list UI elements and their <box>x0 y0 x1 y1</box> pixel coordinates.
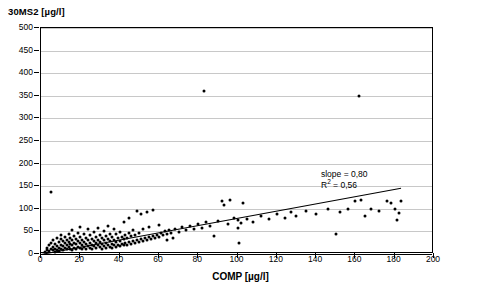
data-point <box>358 94 361 97</box>
chart-root: 30MS2 [µg/l] 050100150200250300350400450… <box>0 0 481 306</box>
data-point <box>240 222 243 225</box>
data-point <box>93 231 96 234</box>
plot-area <box>40 27 433 253</box>
x-tick-mark <box>40 253 41 258</box>
data-point <box>148 225 151 228</box>
y-tick-label: 100 <box>19 204 33 212</box>
y-tick-label: 150 <box>19 181 33 189</box>
data-point <box>51 239 54 242</box>
data-point <box>395 219 398 222</box>
y-tick-label: 250 <box>19 136 33 144</box>
x-axis-title: COMP [µg/l] <box>0 271 481 282</box>
data-point <box>67 232 70 235</box>
y-tick-mark <box>34 95 39 96</box>
data-point <box>334 232 337 235</box>
data-point <box>157 235 160 238</box>
y-tick-label: 300 <box>19 113 33 121</box>
data-point <box>89 234 92 237</box>
data-point <box>95 247 98 250</box>
data-point <box>185 229 188 232</box>
data-point <box>152 208 155 211</box>
data-point <box>104 246 107 249</box>
data-point <box>275 213 278 216</box>
data-point <box>177 231 180 234</box>
data-point <box>360 198 363 201</box>
y-tick-mark <box>34 185 39 186</box>
data-point <box>77 231 80 234</box>
data-point <box>85 247 88 250</box>
data-point <box>165 239 168 242</box>
data-point <box>114 246 117 249</box>
y-tick-label: 350 <box>19 91 33 99</box>
data-point <box>212 234 215 237</box>
data-point <box>49 190 52 193</box>
data-point <box>165 233 168 236</box>
data-point <box>338 211 341 214</box>
data-point <box>157 224 160 227</box>
data-point <box>96 226 99 229</box>
data-point <box>315 213 318 216</box>
data-point <box>283 216 286 219</box>
data-point <box>201 226 204 229</box>
data-point <box>91 248 94 251</box>
data-point <box>326 207 329 210</box>
data-point <box>236 226 239 229</box>
data-point <box>238 241 241 244</box>
data-point <box>364 214 367 217</box>
annotation-r2: R2 = 0,56 <box>321 176 357 191</box>
x-tick-mark <box>433 253 434 258</box>
data-point <box>102 230 105 233</box>
data-point <box>122 244 125 247</box>
data-point <box>397 212 400 215</box>
x-tick-mark <box>394 253 395 258</box>
data-point <box>132 229 135 232</box>
data-point <box>146 238 149 241</box>
data-point <box>126 243 129 246</box>
trend-line <box>41 188 401 255</box>
data-point <box>203 90 206 93</box>
data-point <box>110 247 113 250</box>
data-point <box>79 225 82 228</box>
data-point <box>150 238 153 241</box>
data-point <box>128 216 131 219</box>
data-point <box>130 242 133 245</box>
chart-title: 30MS2 [µg/l] <box>8 6 65 17</box>
data-points-layer <box>41 28 432 252</box>
data-point <box>228 198 231 201</box>
data-point <box>385 199 388 202</box>
data-point <box>71 229 74 232</box>
data-point <box>142 239 145 242</box>
y-tick-mark <box>34 163 39 164</box>
y-tick-mark <box>34 140 39 141</box>
y-tick-mark <box>34 253 39 254</box>
data-point <box>346 207 349 210</box>
x-tick-mark <box>119 253 120 258</box>
x-tick-mark <box>79 253 80 258</box>
data-point <box>118 245 121 248</box>
data-point <box>220 199 223 202</box>
data-point <box>134 241 137 244</box>
x-tick-mark <box>197 253 198 258</box>
y-axis-labels: 050100150200250300350400450500 <box>0 27 36 253</box>
data-point <box>136 210 139 213</box>
data-point <box>47 244 50 247</box>
y-tick-mark <box>34 50 39 51</box>
data-point <box>153 237 156 240</box>
y-tick-label: 200 <box>19 159 33 167</box>
x-tick-mark <box>354 253 355 258</box>
data-point <box>118 231 121 234</box>
data-point <box>59 234 62 237</box>
x-tick-mark <box>276 253 277 258</box>
data-point <box>289 211 292 214</box>
y-tick-label: 500 <box>19 23 33 31</box>
data-point <box>208 224 211 227</box>
data-point <box>142 228 145 231</box>
data-point <box>98 233 101 236</box>
data-point <box>193 228 196 231</box>
data-point <box>389 202 392 205</box>
y-tick-label: 0 <box>28 249 33 257</box>
data-point <box>100 247 103 250</box>
data-point <box>354 199 357 202</box>
y-tick-mark <box>34 27 39 28</box>
data-point <box>242 202 245 205</box>
